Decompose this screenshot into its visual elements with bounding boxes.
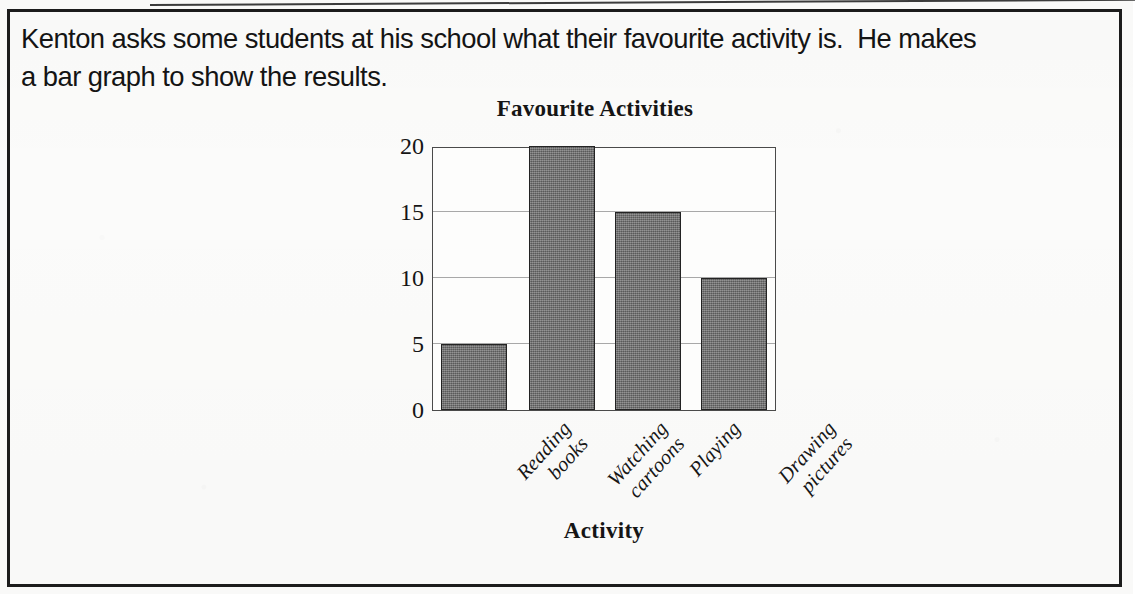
- x-tick-label-reading-books: Readingbooks: [512, 417, 593, 500]
- page-top-rule: [150, 0, 1135, 6]
- x-tick-label-playing: Playing: [685, 417, 746, 481]
- y-tick-label-15: 15: [368, 200, 424, 224]
- plot-area: [432, 147, 776, 411]
- bar-series: [433, 148, 775, 410]
- x-axis-title: Activity: [432, 518, 776, 544]
- prompt-line-2: a bar graph to show the results.: [21, 57, 1039, 95]
- bar-reading-books: [441, 344, 507, 410]
- y-tick-label-10: 10: [368, 266, 424, 290]
- x-tick-label-watching-cartoons: Watchingcartoons: [603, 417, 690, 506]
- bar-drawing-pictures: [701, 278, 767, 410]
- chart-title: Favourite Activities: [330, 96, 800, 122]
- prompt-line-1: Kenton asks some students at his school …: [21, 19, 1039, 57]
- y-tick-label-5: 5: [368, 332, 424, 356]
- bar-watching-cartoons: [529, 146, 595, 410]
- bar-playing: [615, 212, 681, 410]
- y-tick-label-20: 20: [368, 134, 424, 158]
- bar-chart: Favourite Activities Number of students …: [330, 96, 800, 576]
- y-tick-label-0: 0: [368, 398, 424, 422]
- question-prompt: Kenton asks some students at his school …: [21, 19, 1039, 95]
